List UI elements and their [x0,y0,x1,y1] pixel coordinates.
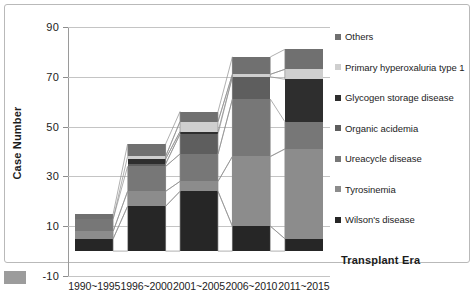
legend-swatch-icon [335,125,341,131]
chart-frame: Case Number -101030507090 1990~19951996~… [4,4,470,263]
legend-swatch-icon [335,95,341,101]
plot-area: -101030507090 1990~19951996~20002001~200… [68,27,330,276]
legend-label: Glycogen storage disease [345,92,454,103]
x-axis-title: Transplant Era [341,254,420,266]
figure: Case Number -101030507090 1990~19951996~… [0,0,475,293]
connector-tyrosinemia [166,181,180,206]
y-tick-label-10: 10 [46,220,59,232]
legend-label: Ureacycle disease [345,153,422,164]
legend-item-primary-hyperoxaluria-type-1[interactable]: Primary hyperoxaluria type 1 [335,62,465,73]
y-tick-label-30: 30 [46,170,59,182]
connector-wilson-s-disease [270,226,284,251]
x-tick-label-2011~2015: 2011~2015 [273,280,335,292]
legend-item-others[interactable]: Others [335,31,373,42]
legend-swatch-icon [335,64,341,70]
y-tick-label--10: -10 [43,270,60,282]
y-tick-label-70: 70 [46,71,59,83]
connector-tyrosinemia [218,156,232,226]
y-axis-title: Case Number [11,106,23,179]
connector-others [270,49,284,74]
legend-item-ureacycle-disease[interactable]: Ureacycle disease [335,153,422,164]
connector-primary-hyperoxaluria-type-1 [270,69,284,79]
legend-label: Wilson's disease [345,214,415,225]
legend-label: Organic acidemia [345,123,418,134]
legend-label: Primary hyperoxaluria type 1 [345,62,465,73]
legend-swatch-icon [335,156,341,162]
connector-wilson-s-disease [166,191,180,251]
connector-ureacycle-disease [113,166,127,231]
y-tick-label-50: 50 [46,121,59,133]
connector-tyrosinemia [270,149,284,239]
legend-item-glycogen-storage-disease[interactable]: Glycogen storage disease [335,92,454,103]
series-connector-ribbons [68,27,330,276]
legend-swatch-icon [335,186,341,192]
legend-label: Others [345,31,373,42]
legend-item-organic-acidemia[interactable]: Organic acidemia [335,123,418,134]
gridline--10 [68,276,330,277]
y-tick--10 [63,276,68,277]
legend-swatch-icon [335,217,341,223]
legend-label: Tyrosinemia [345,184,396,195]
legend-item-wilson-s-disease[interactable]: Wilson's disease [335,214,415,225]
legend-swatch-icon [335,34,341,40]
y-tick-label-90: 90 [46,21,59,33]
connector-others [218,57,232,122]
caption-badge-icon [4,271,26,284]
connector-ureacycle-disease [270,99,284,156]
connector-ureacycle-disease [218,99,232,181]
connector-wilson-s-disease [113,206,127,251]
legend-item-tyrosinemia[interactable]: Tyrosinemia [335,184,396,195]
connector-tyrosinemia [113,191,127,238]
figure-caption [4,271,31,284]
connector-others [113,144,127,219]
